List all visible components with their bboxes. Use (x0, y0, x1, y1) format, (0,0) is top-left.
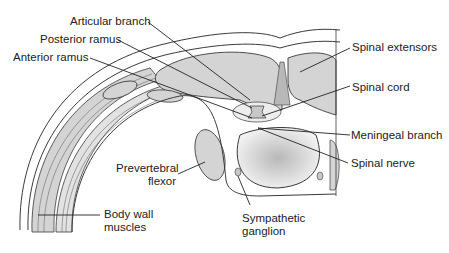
label-body-wall-line1: Body wall (104, 208, 153, 221)
right-flexor-shape (330, 140, 339, 190)
label-posterior-ramus: Posterior ramus (40, 33, 121, 46)
label-spinal-nerve: Spinal nerve (351, 157, 415, 170)
label-prevertebral-flexor: Prevertebral flexor (116, 162, 176, 188)
label-meningeal-branch: Meningeal branch (351, 129, 442, 142)
label-sympathetic-line2: ganglion (242, 225, 305, 238)
label-body-wall-muscles: Body wall muscles (104, 208, 153, 234)
label-prevertebral-line2: flexor (116, 175, 176, 188)
vertebral-body (237, 128, 319, 189)
label-spinal-extensors: Spinal extensors (352, 41, 437, 54)
sympathetic-ganglion-right (317, 172, 323, 180)
sympathetic-ganglion-shape (235, 168, 241, 176)
label-sympathetic-line1: Sympathetic (242, 212, 305, 225)
label-sympathetic-ganglion: Sympathetic ganglion (242, 212, 305, 238)
label-anterior-ramus: Anterior ramus (13, 51, 88, 64)
prevertebral-flexor-shape (190, 126, 231, 183)
label-body-wall-line2: muscles (104, 221, 153, 234)
label-prevertebral-line1: Prevertebral (116, 162, 176, 175)
label-spinal-cord: Spinal cord (352, 81, 410, 94)
label-articular-branch: Articular branch (70, 15, 151, 28)
